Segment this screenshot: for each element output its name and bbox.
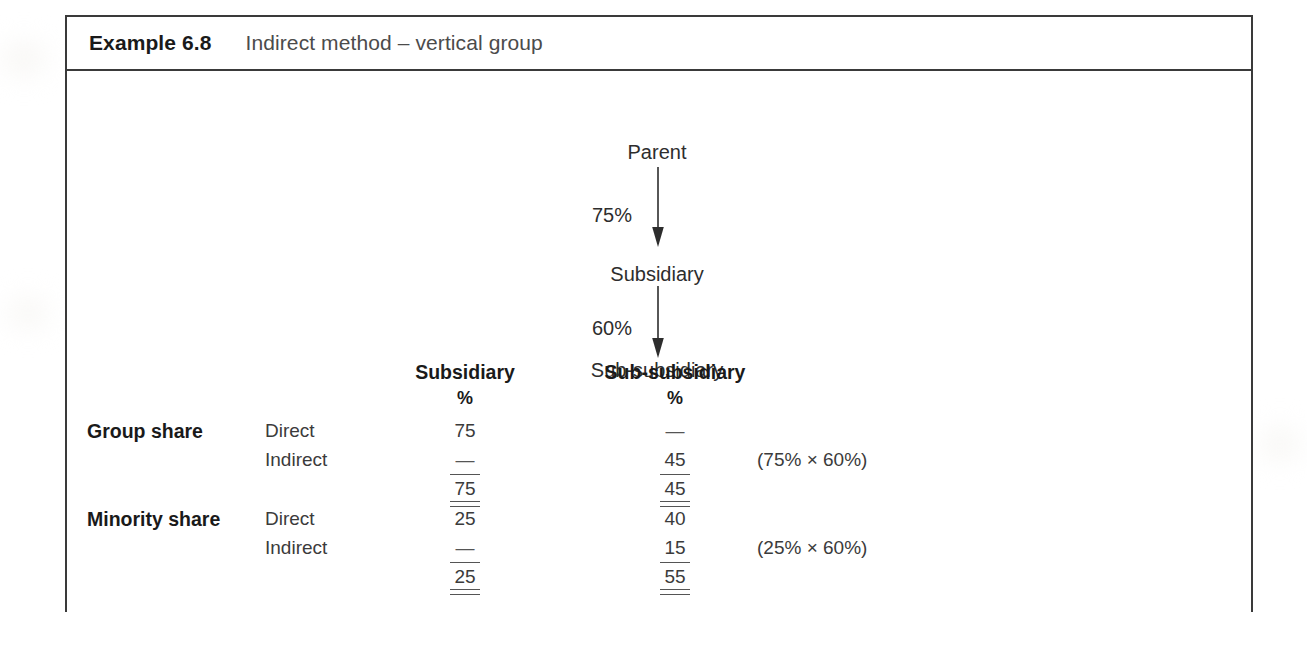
column-unit-sub-subsidiary: % <box>620 388 730 409</box>
cell-value: — <box>450 537 480 559</box>
cell-minority-total-sub-subsidiary: 55 <box>620 566 730 588</box>
cell-value: 25 <box>450 508 480 530</box>
cell-minority-total-subsidiary: 25 <box>415 566 515 588</box>
cell-value: — <box>660 420 690 442</box>
edge-label-parent-subsidiary: 75% <box>592 204 632 227</box>
cell-group-direct-subsidiary: 75 <box>415 420 515 442</box>
cell-minority-direct-sub-subsidiary: 40 <box>620 508 730 530</box>
note-minority-indirect: (25% × 60%) <box>757 537 867 559</box>
group-structure-diagram: Parent 75% Subsidiary 60% Sub-subsidiary <box>67 71 1251 341</box>
row-kind-label: Direct <box>265 420 315 442</box>
cell-value: 25 <box>450 566 480 588</box>
example-header: Example 6.8 Indirect method – vertical g… <box>67 17 1251 71</box>
cell-group-total-sub-subsidiary: 45 <box>620 478 730 500</box>
example-title: Indirect method – vertical group <box>246 31 543 55</box>
row-kind-label: Direct <box>265 508 315 530</box>
section-label-group-share: Group share <box>87 420 203 443</box>
column-header-sub-subsidiary: Sub-subsidiary <box>602 361 748 384</box>
row-kind-label: Indirect <box>265 537 327 559</box>
example-number-label: Example 6.8 <box>89 31 212 55</box>
cell-group-total-subsidiary: 75 <box>415 478 515 500</box>
example-body: Parent 75% Subsidiary 60% Sub-subsidiary… <box>67 71 1251 612</box>
cell-minority-indirect-subsidiary: — <box>415 537 515 559</box>
cell-minority-indirect-sub-subsidiary: 15 <box>620 537 730 559</box>
cell-value: 75 <box>450 478 480 500</box>
scan-artifact-left <box>4 44 44 74</box>
row-kind-label: Indirect <box>265 449 327 471</box>
column-header-subsidiary: Subsidiary <box>407 361 523 384</box>
cell-value: 45 <box>660 449 690 471</box>
example-box: Example 6.8 Indirect method – vertical g… <box>65 15 1253 612</box>
edge-label-subsidiary-sub-subsidiary: 60% <box>592 317 632 340</box>
cell-group-indirect-subsidiary: — <box>415 449 515 471</box>
cell-value: 45 <box>660 478 690 500</box>
diagram-node-subsidiary: Subsidiary <box>610 263 703 286</box>
scan-artifact-right <box>1262 430 1298 458</box>
section-label-minority-share: Minority share <box>87 508 220 531</box>
cell-group-indirect-sub-subsidiary: 45 <box>620 449 730 471</box>
arrow-parent-to-subsidiary-icon <box>650 167 666 249</box>
cell-minority-direct-subsidiary: 25 <box>415 508 515 530</box>
column-unit-subsidiary: % <box>415 388 515 409</box>
note-group-indirect: (75% × 60%) <box>757 449 867 471</box>
cell-value: 75 <box>450 420 480 442</box>
cell-value: 15 <box>660 537 690 559</box>
cell-value: — <box>450 449 480 471</box>
diagram-node-parent: Parent <box>628 141 687 164</box>
cell-value: 40 <box>660 508 690 530</box>
arrow-subsidiary-to-sub-subsidiary-icon <box>650 286 666 360</box>
scan-artifact-lower-left <box>10 300 46 326</box>
cell-group-direct-sub-subsidiary: — <box>620 420 730 442</box>
cell-value: 55 <box>660 566 690 588</box>
